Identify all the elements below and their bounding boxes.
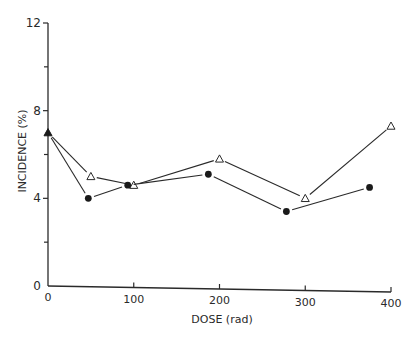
series-segment: [225, 161, 300, 195]
x-tick-label: 400: [381, 297, 402, 310]
series-segment: [97, 178, 128, 184]
filled-circle-marker: [124, 182, 131, 189]
axes: 048120100200300400: [26, 16, 402, 310]
x-tick-label: 100: [123, 293, 144, 306]
series-layer: [44, 122, 395, 215]
y-axis-label: INCIDENCE (%): [16, 109, 29, 192]
control-point-filled-triangle-marker: [44, 129, 52, 136]
open-triangle-marker: [301, 194, 309, 201]
series-filled-circles: [51, 138, 373, 215]
dose-incidence-chart: 048120100200300400 DOSE (rad) INCIDENCE …: [0, 0, 417, 342]
series-segment: [134, 175, 203, 184]
x-tick-label: 0: [45, 291, 52, 304]
x-tick-label: 300: [295, 296, 316, 309]
series-segment: [214, 177, 281, 209]
open-triangle-marker: [387, 122, 395, 129]
y-tick-label: 12: [26, 16, 41, 30]
series-segment: [139, 161, 213, 184]
open-triangle-marker: [87, 172, 95, 179]
x-tick-label: 200: [209, 294, 230, 307]
series-open-triangles: [52, 122, 395, 202]
x-axis-label: DOSE (rad): [191, 313, 252, 326]
y-tick-label: 4: [33, 191, 41, 205]
series-segment: [94, 187, 122, 196]
filled-circle-marker: [85, 195, 92, 202]
filled-circle-marker: [283, 208, 290, 215]
y-tick-label: 8: [33, 104, 41, 118]
y-tick-label: 0: [33, 279, 41, 293]
filled-circle-marker: [366, 184, 373, 191]
series-segment: [310, 130, 387, 195]
filled-circle-marker: [205, 171, 212, 178]
open-triangle-marker: [216, 155, 224, 162]
